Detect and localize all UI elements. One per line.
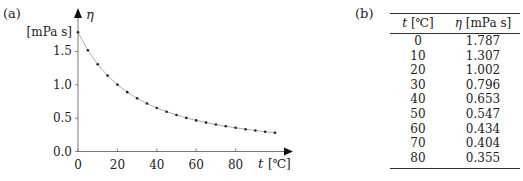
x-axis-arrow-icon (284, 148, 293, 156)
data-point (244, 128, 247, 131)
data-point (185, 117, 188, 120)
data-point (274, 131, 277, 134)
cell-viscosity: 0.653 (446, 92, 520, 107)
fitted-curve (78, 32, 275, 132)
x-axis-unit: [℃] (268, 157, 291, 171)
cell-temperature: 70 (390, 136, 446, 151)
data-point (96, 63, 99, 66)
data-point (87, 49, 90, 52)
y-axis-arrow-icon (74, 8, 82, 18)
cell-viscosity: 1.307 (446, 49, 520, 64)
table-row: 201.002 (390, 63, 520, 78)
cell-viscosity: 1.787 (446, 34, 520, 49)
cell-temperature: 10 (390, 49, 446, 64)
table-row: 500.547 (390, 107, 520, 122)
cell-viscosity: 0.404 (446, 136, 520, 151)
cell-viscosity: 0.434 (446, 122, 520, 137)
viscosity-table: t [℃] η [mPa s] 01.787101.307201.002300.… (390, 13, 520, 169)
y-tick-label: 0.0 (53, 145, 72, 159)
data-points (77, 31, 277, 134)
table-row: 400.653 (390, 92, 520, 107)
viscosity-chart: 0204060800.00.51.01.5 η [mPa s] t [℃] (0, 0, 340, 181)
cell-viscosity: 1.002 (446, 63, 520, 78)
data-point (205, 121, 208, 124)
axes: 0204060800.00.51.01.5 (53, 8, 293, 172)
data-point (146, 102, 149, 105)
cell-temperature: 30 (390, 78, 446, 93)
data-point (224, 125, 227, 128)
header-viscosity: η [mPa s] (446, 14, 520, 34)
data-point (195, 119, 198, 122)
x-tick-label: 0 (74, 158, 82, 172)
x-tick-label: 60 (189, 158, 204, 172)
data-point (116, 83, 119, 86)
cell-temperature: 20 (390, 63, 446, 78)
cell-viscosity: 0.796 (446, 78, 520, 93)
cell-temperature: 0 (390, 34, 446, 49)
y-tick-label: 1.0 (53, 78, 72, 92)
x-tick-label: 20 (110, 158, 125, 172)
data-point (175, 114, 178, 117)
y-tick-label: 0.5 (53, 111, 72, 125)
cell-temperature: 50 (390, 107, 446, 122)
data-point (126, 91, 129, 94)
data-point (234, 127, 237, 130)
cell-viscosity: 0.355 (446, 151, 520, 169)
x-tick-label: 40 (149, 158, 164, 172)
data-point (215, 123, 218, 126)
y-tick-label: 1.5 (53, 44, 72, 58)
data-point (264, 130, 267, 133)
y-axis-unit: [mPa s] (27, 25, 72, 39)
y-axis-variable: η (86, 7, 94, 22)
table-row: 300.796 (390, 78, 520, 93)
table-row: 600.434 (390, 122, 520, 137)
table-row: 800.355 (390, 151, 520, 169)
data-point (77, 31, 80, 34)
cell-temperature: 80 (390, 151, 446, 169)
data-point (156, 107, 159, 110)
table-row: 700.404 (390, 136, 520, 151)
x-axis-variable: t (258, 156, 264, 171)
cell-temperature: 60 (390, 122, 446, 137)
data-point (165, 110, 168, 113)
x-tick-label: 80 (228, 158, 243, 172)
cell-viscosity: 0.547 (446, 107, 520, 122)
cell-temperature: 40 (390, 92, 446, 107)
panel-label-b: (b) (355, 6, 373, 21)
data-point (136, 97, 139, 100)
table-row: 101.307 (390, 49, 520, 64)
header-temperature: t [℃] (390, 14, 446, 34)
data-point (254, 129, 257, 132)
data-point (106, 74, 109, 77)
table-row: 01.787 (390, 34, 520, 49)
table-header-row: t [℃] η [mPa s] (390, 14, 520, 34)
